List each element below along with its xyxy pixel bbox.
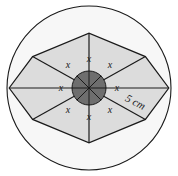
angle-label-top: x	[87, 54, 91, 64]
figure-canvas	[0, 0, 178, 176]
angle-label-top-right: x	[108, 60, 112, 70]
angle-label-right: x	[115, 83, 119, 93]
angle-label-bottom-left: x	[66, 105, 70, 115]
hub-radii-group	[72, 71, 106, 105]
geometry-figure: x x x x x x x x 5 cm	[0, 0, 178, 176]
angle-label-bottom: x	[87, 112, 91, 122]
angle-label-bottom-right: x	[108, 105, 112, 115]
angle-label-left: x	[59, 83, 63, 93]
angle-label-top-left: x	[66, 60, 70, 70]
